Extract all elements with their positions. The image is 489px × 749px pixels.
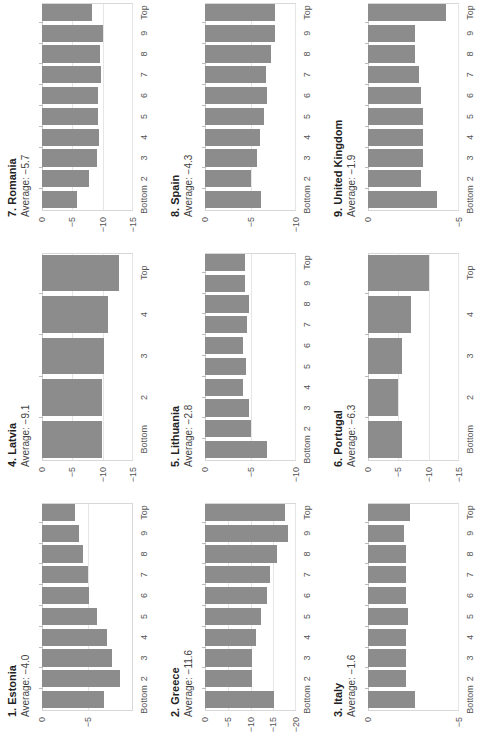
y-tick-label: −5 [246,467,256,477]
category-tick [39,376,43,377]
bar [205,149,257,166]
x-tick-label: 7 [302,322,312,327]
bar [205,295,249,312]
x-tick-label: 5 [465,614,475,619]
category-tick [202,22,206,23]
x-tick-label: 7 [139,72,149,77]
bar [205,379,243,396]
x-tick-label: 3 [465,353,475,358]
x-tick-label: 2 [302,176,312,181]
chart-panel: 1. EstoniaAverage: −4.00−5Bottom23456789… [0,500,163,749]
gridline [132,254,133,460]
x-tick-label: 7 [139,572,149,577]
gridline [458,254,459,460]
y-tick-label: −5 [67,467,77,477]
gridline [295,504,296,710]
bar [205,629,256,646]
category-tick [39,626,43,627]
category-tick [202,126,206,127]
x-tick-label: 8 [302,51,312,56]
x-tick-label: 5 [139,614,149,619]
bar [368,649,406,666]
panel-average: Average: −6.3 [346,405,357,467]
x-tick-label: 7 [302,572,312,577]
panel-title: 5. Lithuania [169,406,181,467]
category-tick [202,293,206,294]
x-tick-label: 6 [465,93,475,98]
bar [205,25,275,42]
bar [42,649,112,666]
bar [42,525,79,542]
bar [42,670,120,687]
x-tick-label: Bottom [139,425,149,454]
y-tick-label: −10 [424,467,434,482]
category-tick [202,63,206,64]
x-tick-label: 5 [465,114,475,119]
x-tick-label: 8 [465,551,475,556]
x-tick-label: 6 [139,593,149,598]
bar [368,170,421,187]
x-tick-label: 3 [302,405,312,410]
panel-title: 7. Romania [6,158,18,217]
chart-panel: 4. LatviaAverage: −9.10−5−10−15Bottom234… [0,250,163,499]
bar [205,441,267,458]
x-tick-label: 4 [302,135,312,140]
y-tick-label: −15 [128,467,138,482]
category-tick [39,584,43,585]
category-tick [39,293,43,294]
x-tick-label: 9 [302,531,312,536]
x-tick-label: 9 [139,31,149,36]
bar [205,649,252,666]
category-tick [39,84,43,85]
panel-average: Average: −2.8 [183,405,194,467]
bar [205,275,245,292]
bar [368,670,406,687]
category-tick [365,584,369,585]
x-tick-label: 2 [465,176,475,181]
bar [368,108,423,125]
x-tick-label: 4 [465,312,475,317]
bar [205,254,245,271]
y-tick-label: 0 [37,467,47,472]
y-tick-label: −10 [98,467,108,482]
bar [42,691,104,708]
plot-area: 0−5Bottom23456789Top [368,503,459,711]
bar [42,87,98,104]
x-tick-label: 8 [465,51,475,56]
bar [368,421,402,458]
bar [205,691,274,708]
bar [42,566,88,583]
chart-panel: 6. PortugalAverage: −6.30−5−10−15Bottom2… [326,250,489,499]
bar [205,587,267,604]
x-tick-label: 4 [139,312,149,317]
category-tick [202,626,206,627]
category-tick [365,417,369,418]
panel-average: Average: −1.9 [346,155,357,217]
category-tick [202,688,206,689]
x-tick-label: Bottom [465,685,475,714]
x-tick-label: Top [302,5,312,20]
x-tick-label: 5 [139,114,149,119]
y-tick-label: −10 [98,217,108,232]
x-tick-label: 8 [302,301,312,306]
y-tick-label: 0 [200,217,210,222]
category-tick [202,397,206,398]
category-tick [202,313,206,314]
x-tick-label: 4 [465,135,475,140]
category-tick [202,417,206,418]
x-tick-label: Top [139,505,149,520]
category-tick [365,293,369,294]
category-tick [365,334,369,335]
category-tick [39,105,43,106]
category-tick [202,647,206,648]
x-tick-label: Top [139,266,149,281]
y-tick-label: −20 [291,717,301,732]
category-tick [39,63,43,64]
y-tick-label: −15 [128,217,138,232]
panel-average: Average: −9.1 [20,405,31,467]
gridline [103,4,104,210]
bar [368,4,446,21]
x-tick-label: 3 [302,155,312,160]
category-tick [39,188,43,189]
gridline [132,4,133,210]
